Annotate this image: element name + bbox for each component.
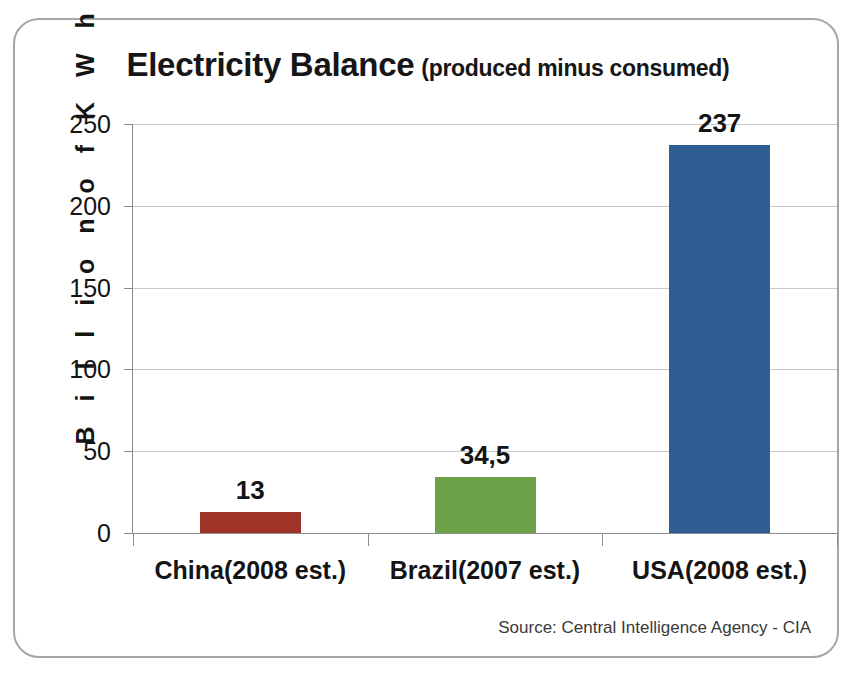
y-tick-mark-0 xyxy=(124,533,133,534)
y-tick-label-50: 50 xyxy=(0,437,111,466)
y-tick-mark-100 xyxy=(124,369,133,370)
category-separator-1 xyxy=(368,533,369,546)
x-category-label-brazil: Brazil(2007 est.) xyxy=(368,556,603,585)
x-category-label-usa: USA(2008 est.) xyxy=(602,556,837,585)
bar-usa[interactable] xyxy=(669,145,770,533)
plot-area: 050100150200250 1334,5237 China(2008 est… xyxy=(133,124,837,533)
y-axis-line xyxy=(132,124,133,533)
y-tick-label-0: 0 xyxy=(0,519,111,548)
y-tick-label-150: 150 xyxy=(0,273,111,302)
y-tick-label-100: 100 xyxy=(0,355,111,384)
bar-value-brazil: 34,5 xyxy=(395,440,575,471)
bar-value-china: 13 xyxy=(160,475,340,506)
y-tick-label-200: 200 xyxy=(0,191,111,220)
gridline-0 xyxy=(133,533,837,534)
y-tick-mark-200 xyxy=(124,206,133,207)
y-tick-mark-50 xyxy=(124,451,133,452)
slide-card: Electricity Balance(produced minus consu… xyxy=(13,18,839,658)
bar-brazil[interactable] xyxy=(435,477,536,533)
bar-china[interactable] xyxy=(200,512,301,533)
bar-value-usa: 237 xyxy=(630,108,810,139)
category-axis-end-tick-1 xyxy=(837,533,838,546)
category-axis-end-tick-0 xyxy=(133,533,134,546)
source-note: Source: Central Intelligence Agency - CI… xyxy=(498,618,811,638)
y-tick-label-250: 250 xyxy=(0,110,111,139)
x-category-label-china: China(2008 est.) xyxy=(133,556,368,585)
y-tick-mark-150 xyxy=(124,288,133,289)
plot-wrapper: 050100150200250 1334,5237 China(2008 est… xyxy=(15,20,841,660)
y-tick-mark-250 xyxy=(124,124,133,125)
category-separator-2 xyxy=(602,533,603,546)
